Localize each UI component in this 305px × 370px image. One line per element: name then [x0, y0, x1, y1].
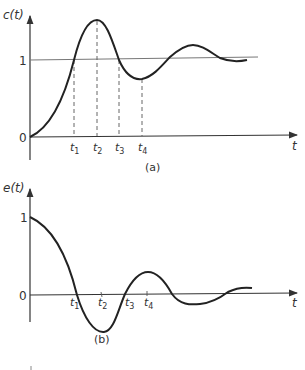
- chart-b-y-zero-label: 0: [19, 289, 27, 303]
- chart-b: e(t) 1 0 t t1 t2 t3 t4 (b): [3, 181, 298, 346]
- chart-b-t4-label: t4: [144, 296, 153, 311]
- chart-b-x-axis: [30, 293, 297, 295]
- chart-b-y-one-label: 1: [20, 211, 28, 225]
- response-diagram: c(t) 1 0 t t1 t2 t3 t4 (a) e(t) 1 0 t t1…: [0, 0, 305, 370]
- chart-a: c(t) 1 0 t t1 t2 t3 t4 (a): [3, 8, 298, 174]
- chart-b-curve: [30, 217, 252, 332]
- chart-b-ylabel: e(t): [3, 181, 24, 195]
- chart-b-xlabel: t: [292, 296, 298, 310]
- chart-a-xlabel: t: [292, 139, 298, 153]
- chart-a-curve: [30, 20, 247, 137]
- chart-a-y-zero-label: 0: [19, 131, 27, 145]
- chart-b-t2-label: t2: [98, 296, 107, 311]
- chart-a-y-one-label: 1: [19, 54, 27, 68]
- chart-b-t3-label: t3: [125, 296, 134, 311]
- chart-a-caption: (a): [145, 161, 160, 174]
- chart-a-t1-label: t1: [70, 141, 79, 156]
- chart-a-t2-label: t2: [93, 141, 102, 156]
- chart-a-t4-label: t4: [138, 141, 147, 156]
- chart-a-t3-label: t3: [115, 141, 124, 156]
- chart-a-ylabel: c(t): [3, 8, 24, 22]
- chart-a-x-axis: [30, 135, 297, 137]
- chart-b-caption: (b): [94, 333, 110, 346]
